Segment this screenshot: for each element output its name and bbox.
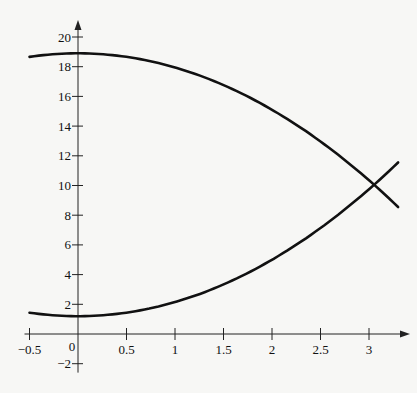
y-tick-label: 16: [58, 89, 72, 104]
x-axis-arrow-icon: [400, 331, 410, 338]
x-tick-label: 1: [172, 342, 179, 357]
x-tick-label: 2.5: [312, 342, 328, 357]
increasing-curve: [30, 163, 399, 317]
plot-area: −0.500.511.522.53−22468101214161820: [0, 0, 417, 393]
y-tick-label: 6: [65, 237, 72, 252]
x-tick-label: 3: [366, 342, 373, 357]
x-tick-label: −0.5: [18, 342, 42, 357]
x-tick-label: 2: [269, 342, 276, 357]
y-tick-label: 4: [65, 267, 72, 282]
x-tick-label: 1.5: [215, 342, 231, 357]
y-tick-label: 14: [58, 119, 72, 134]
decreasing-curve: [30, 53, 399, 207]
y-tick-label: 2: [65, 297, 72, 312]
x-tick-label: 0.5: [118, 342, 134, 357]
x-tick-label: 0: [69, 339, 76, 354]
chart: −0.500.511.522.53−22468101214161820: [0, 0, 417, 393]
y-tick-label: 12: [58, 148, 71, 163]
y-tick-label: 10: [58, 178, 71, 193]
y-tick-label: 18: [58, 59, 71, 74]
y-tick-label: 20: [58, 30, 71, 45]
y-axis-arrow-icon: [75, 20, 82, 30]
y-tick-label: 8: [65, 208, 72, 223]
y-tick-label: −2: [57, 356, 71, 371]
